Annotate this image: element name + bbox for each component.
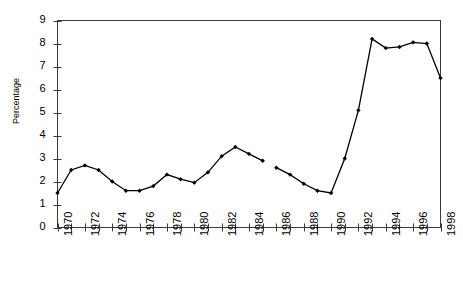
data-point-marker bbox=[411, 40, 415, 44]
data-point-marker bbox=[274, 166, 278, 170]
y-tick-label: 8 bbox=[28, 36, 46, 48]
data-point-marker bbox=[438, 76, 442, 80]
y-tick-label: 6 bbox=[28, 82, 46, 94]
data-point-marker bbox=[137, 189, 141, 193]
plot-area bbox=[0, 0, 463, 283]
x-tick-label: 1990 bbox=[335, 211, 347, 235]
plot-frame bbox=[58, 21, 441, 228]
x-tick-label: 1972 bbox=[89, 211, 101, 235]
data-point-marker bbox=[247, 152, 251, 156]
x-tick-label: 1976 bbox=[144, 211, 156, 235]
x-tick-label: 1996 bbox=[417, 211, 429, 235]
data-point-marker bbox=[343, 156, 347, 160]
x-tick-label: 1986 bbox=[280, 211, 292, 235]
x-tick-label: 1988 bbox=[308, 211, 320, 235]
data-point-marker bbox=[315, 189, 319, 193]
x-tick-label: 1994 bbox=[390, 211, 402, 235]
data-point-marker bbox=[425, 41, 429, 45]
x-tick-label: 1978 bbox=[171, 211, 183, 235]
x-tick-label: 1980 bbox=[198, 211, 210, 235]
x-tick-label: 1992 bbox=[362, 211, 374, 235]
y-tick-label: 5 bbox=[28, 105, 46, 117]
x-tick-label: 1998 bbox=[445, 211, 457, 235]
data-point-marker bbox=[356, 108, 360, 112]
data-point-marker bbox=[329, 191, 333, 195]
axes bbox=[58, 21, 441, 228]
y-tick-label: 0 bbox=[28, 220, 46, 232]
x-tick-label: 1984 bbox=[253, 211, 265, 235]
series-line bbox=[276, 39, 440, 193]
x-tick-label: 1974 bbox=[116, 211, 128, 235]
series-line bbox=[58, 147, 263, 193]
y-tick-label: 1 bbox=[28, 197, 46, 209]
y-tick-label: 3 bbox=[28, 151, 46, 163]
y-tick-label: 2 bbox=[28, 174, 46, 186]
line-chart: Percentage 0123456789 197019721974197619… bbox=[0, 0, 463, 283]
x-tick-label: 1970 bbox=[62, 211, 74, 235]
data-series bbox=[58, 39, 441, 193]
data-point-marker bbox=[83, 163, 87, 167]
y-tick-label: 4 bbox=[28, 128, 46, 140]
data-markers bbox=[55, 37, 442, 196]
data-point-marker bbox=[397, 45, 401, 49]
x-tick-label: 1982 bbox=[226, 211, 238, 235]
y-tick-label: 7 bbox=[28, 59, 46, 71]
data-point-marker bbox=[260, 159, 264, 163]
data-point-marker bbox=[178, 177, 182, 181]
y-tick-label: 9 bbox=[28, 13, 46, 25]
